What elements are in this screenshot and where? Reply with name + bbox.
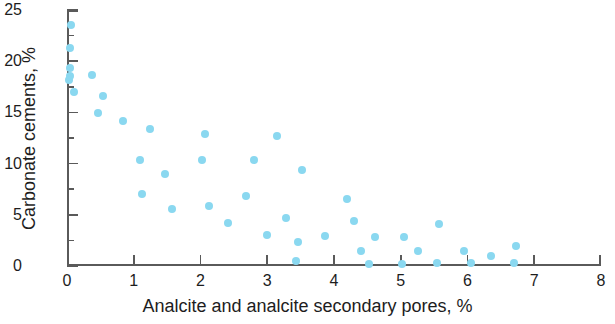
x-tick-major (200, 255, 202, 266)
x-tick-major (266, 255, 268, 266)
y-tick-label: 25 (4, 1, 22, 19)
data-point (119, 117, 127, 125)
data-point (435, 220, 443, 228)
data-point (512, 242, 520, 250)
data-point (70, 88, 78, 96)
data-point (65, 76, 73, 84)
data-point (460, 247, 468, 255)
data-point (294, 238, 302, 246)
x-axis-title: Analcite and analcite secondary pores, % (0, 296, 615, 317)
x-tick-label: 6 (463, 272, 472, 290)
x-tick-label: 5 (396, 272, 405, 290)
y-tick-label: 5 (13, 206, 22, 224)
data-point (161, 170, 169, 178)
scatter-plot-figure: Carbonate cements, % 0510152025 01234567… (0, 0, 615, 324)
data-point (371, 233, 379, 241)
data-point (168, 205, 176, 213)
x-tick-major (133, 255, 135, 266)
data-point (198, 156, 206, 164)
y-tick-label: 0 (13, 257, 22, 275)
data-point (250, 156, 258, 164)
data-point (94, 109, 102, 117)
data-point (298, 166, 306, 174)
data-point (282, 214, 290, 222)
y-tick-major (67, 9, 78, 11)
data-point (398, 260, 406, 268)
data-point (273, 132, 281, 140)
data-point (201, 130, 209, 138)
y-tick-minor (67, 35, 74, 37)
x-tick-label: 0 (63, 272, 72, 290)
plot-area (67, 10, 601, 266)
data-point (263, 231, 271, 239)
data-point (99, 92, 107, 100)
frame-right-stub (599, 255, 601, 266)
data-point (138, 190, 146, 198)
x-tick-major (533, 255, 535, 266)
x-tick-label: 7 (530, 272, 539, 290)
data-point (292, 257, 300, 265)
data-point (224, 219, 232, 227)
y-tick-label: 20 (4, 52, 22, 70)
data-point (365, 260, 373, 268)
data-point (88, 71, 96, 79)
data-point (414, 247, 422, 255)
y-tick-label: 15 (4, 103, 22, 121)
x-tick-label: 3 (263, 272, 272, 290)
data-point (343, 195, 351, 203)
data-point (487, 252, 495, 260)
y-tick-minor (67, 240, 74, 242)
y-tick-major (67, 163, 78, 165)
x-tick-label: 1 (129, 272, 138, 290)
y-tick-major (67, 112, 78, 114)
y-tick-major (67, 265, 78, 267)
data-point (242, 192, 250, 200)
x-tick-label: 8 (597, 272, 606, 290)
data-point (400, 233, 408, 241)
data-point (146, 125, 154, 133)
x-tick-label: 2 (196, 272, 205, 290)
data-point (67, 21, 75, 29)
y-axis-tick-labels: 0510152025 (22, 10, 60, 266)
x-tick-label: 4 (330, 272, 339, 290)
y-tick-major (67, 60, 78, 62)
data-point (467, 259, 475, 267)
data-point (350, 217, 358, 225)
data-point (321, 232, 329, 240)
data-point (136, 156, 144, 164)
y-tick-major (67, 214, 78, 216)
data-point (205, 202, 213, 210)
y-tick-label: 10 (4, 155, 22, 173)
y-tick-minor (67, 188, 74, 190)
y-tick-minor (67, 137, 74, 139)
data-point (66, 44, 74, 52)
data-point (357, 247, 365, 255)
x-tick-major (333, 255, 335, 266)
x-axis-tick-labels: 012345678 (67, 272, 601, 294)
